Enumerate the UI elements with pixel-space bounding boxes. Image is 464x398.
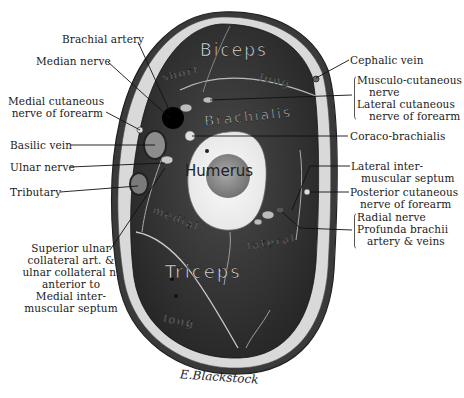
- label-biceps: Biceps: [200, 40, 268, 60]
- label-line: Lateral cutaneous: [357, 98, 462, 110]
- label-line: ulnar collateral n.: [22, 266, 120, 278]
- label-line: nerve: [357, 86, 462, 98]
- label-triceps: Triceps: [164, 261, 242, 282]
- label-superior-ulnar-collateral: Superior ulnar collateral art. & ulnar c…: [22, 242, 120, 314]
- label-basilic-vein: Basilic vein: [10, 139, 72, 151]
- tributary-vessel: [130, 173, 148, 195]
- label-line: nerve of forearm: [8, 107, 103, 119]
- label-medial-cutaneous-nerve: Medial cutaneous nerve of forearm: [8, 95, 103, 119]
- label-line: Superior ulnar: [22, 242, 120, 254]
- label-coraco-brachialis: Coraco-brachialis: [350, 130, 445, 142]
- label-line: muscular septum: [351, 172, 455, 184]
- label-line: Posterior cutaneous: [350, 186, 458, 198]
- label-brachial-artery: Brachial artery: [62, 33, 144, 45]
- posterior-cutaneous-nerve-vessel: [304, 189, 310, 195]
- label-ulnar-nerve: Ulnar nerve: [10, 161, 75, 173]
- label-line: Profunda brachii: [357, 223, 448, 235]
- label-line: nerve of forearm: [350, 198, 458, 210]
- median-nerve-vessel: [180, 104, 192, 112]
- label-line: collateral art. &: [22, 254, 120, 266]
- label-line: Musculo-cutaneous: [357, 74, 462, 86]
- label-radial-nerve-group: Radial nerve Profunda brachii artery & v…: [357, 211, 448, 247]
- label-lateral-intermuscular-septum: Lateral inter- muscular septum: [351, 160, 455, 184]
- label-line: Medial inter-: [22, 290, 120, 302]
- label-cephalic-vein: Cephalic vein: [350, 54, 424, 66]
- nutrient-foramen: [205, 149, 209, 153]
- label-line: nerve of forearm: [357, 110, 462, 122]
- label-tributary: Tributary: [10, 186, 61, 198]
- label-line: artery & veins: [357, 235, 448, 247]
- label-humerus: Humerus: [185, 162, 253, 180]
- label-line: Medial cutaneous: [8, 95, 103, 107]
- label-line: Lateral inter-: [351, 160, 455, 172]
- label-line: muscular septum: [22, 302, 120, 314]
- label-posterior-cutaneous-nerve: Posterior cutaneous nerve of forearm: [350, 186, 458, 210]
- label-median-nerve: Median nerve: [36, 55, 111, 67]
- label-musculo-cutaneous-group: Musculo-cutaneous nerve Lateral cutaneou…: [357, 74, 462, 122]
- label-line: anterior to: [22, 278, 120, 290]
- label-line: Radial nerve: [357, 211, 448, 223]
